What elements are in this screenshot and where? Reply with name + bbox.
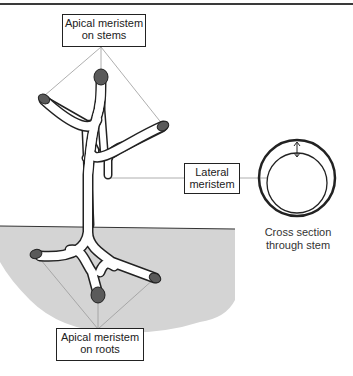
tip-shoot-top (94, 69, 108, 85)
label-line-1: Apical meristem (63, 17, 145, 29)
cross-section-diagram (259, 140, 335, 216)
soil-region (0, 226, 235, 333)
inner-ring (267, 153, 327, 213)
label-line-2: on stems (63, 29, 145, 41)
label-lateral-meristem: Lateral meristem (184, 163, 240, 194)
label-apical-meristem-roots: Apical meristem on roots (56, 328, 144, 361)
caption-line-1: Cross section (255, 226, 341, 239)
label-line-1: Apical meristem (57, 331, 143, 343)
tip-root-bottom (91, 287, 105, 303)
plant-diagram (0, 0, 353, 376)
caption-line-2: through stem (255, 239, 341, 252)
label-apical-meristem-stems: Apical meristem on stems (62, 14, 146, 47)
label-line-2: meristem (185, 178, 239, 190)
label-line-2: on roots (57, 343, 143, 355)
label-line-1: Lateral (185, 166, 239, 178)
caption-cross-section: Cross section through stem (255, 226, 341, 252)
